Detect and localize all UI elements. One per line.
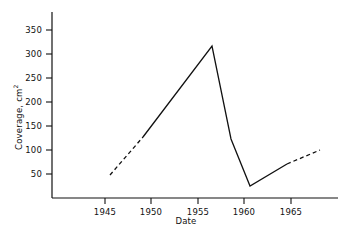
series-segment-solid: [143, 46, 287, 186]
plot-area: [0, 0, 344, 239]
y-tick-label-300: 300: [8, 49, 42, 59]
y-tick-label-350: 350: [8, 25, 42, 35]
series-segment-dashed-end: [287, 150, 320, 164]
y-axis-label-text: Coverage, cm: [14, 89, 24, 150]
x-axis-ticks: [105, 198, 291, 204]
chart-figure: 50 100 150 200 250 300 350 1945 1950 195…: [0, 0, 344, 239]
y-axis-label-superscript: 2: [12, 84, 19, 88]
y-axis-label: Coverage, cm2: [12, 84, 24, 150]
series-segment-dashed-start: [110, 137, 143, 175]
y-axis-ticks: [46, 30, 52, 174]
x-axis-label: Date: [14, 216, 344, 226]
y-tick-label-50: 50: [8, 169, 42, 179]
y-tick-label-250: 250: [8, 73, 42, 83]
